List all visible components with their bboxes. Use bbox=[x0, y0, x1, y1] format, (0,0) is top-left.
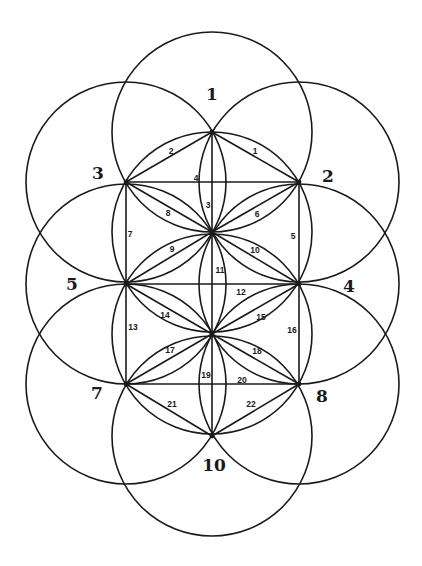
edge-label-1: 1 bbox=[253, 146, 258, 156]
edge-label-10: 10 bbox=[250, 245, 260, 255]
edge-label-15: 15 bbox=[256, 312, 266, 322]
edge-label-9: 9 bbox=[170, 244, 175, 254]
circle-graph-diagram: 12345678910111213141516171819202122 1234… bbox=[0, 0, 422, 566]
circle-label-8: 8 bbox=[316, 386, 328, 406]
vertex-H bbox=[124, 382, 129, 387]
vertex-G bbox=[210, 332, 215, 337]
circle-label-3: 3 bbox=[92, 163, 104, 183]
edge-label-14: 14 bbox=[160, 310, 170, 320]
vertex-I bbox=[297, 382, 302, 387]
edge-label-5: 5 bbox=[291, 231, 296, 241]
edge-label-8: 8 bbox=[166, 208, 171, 218]
vertex-E bbox=[124, 282, 129, 287]
edge-label-13: 13 bbox=[128, 322, 138, 332]
edges-layer bbox=[126, 132, 299, 436]
circle-label-5: 5 bbox=[66, 274, 78, 294]
vertex-D bbox=[210, 230, 215, 235]
edge-label-11: 11 bbox=[216, 265, 225, 275]
edge-label-7: 7 bbox=[128, 229, 133, 239]
vertex-J bbox=[210, 434, 215, 439]
circle-label-2: 2 bbox=[322, 166, 334, 186]
edge-label-18: 18 bbox=[252, 346, 262, 356]
edge-label-16: 16 bbox=[287, 325, 297, 335]
vertex-B bbox=[124, 180, 129, 185]
edge-label-17: 17 bbox=[165, 345, 175, 355]
circle-label-10: 10 bbox=[202, 455, 226, 475]
circle-label-7: 7 bbox=[91, 383, 103, 403]
circle-label-1: 1 bbox=[206, 84, 218, 104]
edge-label-2: 2 bbox=[169, 146, 174, 156]
edge-label-20: 20 bbox=[237, 375, 247, 385]
edge-label-3: 3 bbox=[206, 200, 211, 210]
edge-label-6: 6 bbox=[255, 209, 260, 219]
edge-label-12: 12 bbox=[236, 287, 246, 297]
edge-label-4: 4 bbox=[194, 173, 199, 183]
vertex-C bbox=[297, 180, 302, 185]
edge-label-22: 22 bbox=[246, 399, 256, 409]
edge-label-19: 19 bbox=[201, 370, 211, 380]
circle-label-4: 4 bbox=[343, 276, 355, 296]
vertex-F bbox=[297, 282, 302, 287]
edge-label-21: 21 bbox=[167, 399, 177, 409]
vertex-A bbox=[210, 130, 215, 135]
